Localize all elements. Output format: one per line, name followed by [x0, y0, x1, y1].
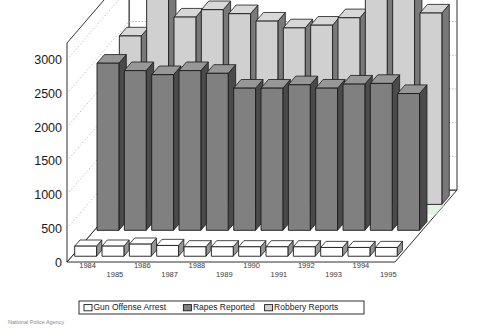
- x-tick-label-1991: 1991: [271, 270, 288, 279]
- x-tick-label-1993: 1993: [325, 270, 342, 279]
- y-tick-label-3000: 3000: [34, 53, 62, 67]
- bar-gun-offense-arrest-1994[interactable]: [348, 247, 370, 256]
- bar-top-gun-offense-arrest-1987: [157, 239, 184, 245]
- bar-rapes-reported-1985[interactable]: [124, 71, 146, 231]
- bar-top-gun-offense-arrest-1989: [211, 241, 238, 247]
- bar-rapes-reported-1992[interactable]: [316, 88, 338, 230]
- x-tick-label-1988: 1988: [189, 261, 206, 270]
- y-tick-label-0: 0: [55, 256, 62, 270]
- bar-gun-offense-arrest-1986[interactable]: [129, 244, 151, 256]
- bar-top-gun-offense-arrest-1991: [266, 241, 293, 247]
- bar-rapes-reported-1994[interactable]: [370, 83, 392, 230]
- bar-gun-offense-arrest-1995[interactable]: [375, 247, 397, 256]
- bar-gun-offense-arrest-1988[interactable]: [184, 247, 206, 256]
- legend-swatch-gun-offense-arrest: [84, 305, 92, 311]
- bar-top-gun-offense-arrest-1992: [293, 241, 320, 247]
- x-tick-label-1994: 1994: [353, 261, 370, 270]
- legend-label-gun-offense-arrest: Gun Offense Arrest: [94, 302, 167, 312]
- x-tick-label-1985: 1985: [107, 270, 124, 279]
- x-tick-label-1990: 1990: [243, 261, 260, 270]
- bar-chart-3d: 0500100015002000250030001984198519861987…: [0, 0, 484, 336]
- bar-rapes-reported-1991[interactable]: [288, 85, 310, 231]
- bar-gun-offense-arrest-1987[interactable]: [157, 245, 179, 256]
- bar-rapes-reported-1987[interactable]: [179, 71, 201, 231]
- chart-root: 0500100015002000250030001984198519861987…: [0, 0, 484, 336]
- y-tick-label-500: 500: [41, 222, 62, 236]
- bar-gun-offense-arrest-1989[interactable]: [211, 247, 233, 256]
- bar-rapes-reported-1986[interactable]: [152, 75, 174, 231]
- bar-side-robbery-reports-1995: [442, 4, 449, 204]
- bar-top-gun-offense-arrest-1995: [375, 241, 402, 247]
- bar-top-gun-offense-arrest-1984: [75, 240, 102, 246]
- bar-gun-offense-arrest-1992[interactable]: [293, 247, 315, 256]
- x-tick-label-1992: 1992: [298, 261, 315, 270]
- y-tick-label-1500: 1500: [34, 154, 62, 168]
- x-tick-label-1987: 1987: [161, 270, 178, 279]
- bar-top-gun-offense-arrest-1990: [239, 241, 266, 247]
- bar-gun-offense-arrest-1984[interactable]: [75, 246, 97, 256]
- legend-swatch-rapes-reported: [183, 305, 191, 311]
- bar-rapes-reported-1995[interactable]: [398, 94, 420, 231]
- source-caption: National Police Agency: [8, 319, 65, 325]
- legend-label-robbery-reports: Robbery Reports: [274, 302, 338, 312]
- bar-top-gun-offense-arrest-1985: [102, 240, 129, 246]
- bar-side-rapes-reported-1995: [420, 85, 427, 230]
- x-tick-label-1986: 1986: [134, 261, 151, 270]
- legend-swatch-robbery-reports: [265, 305, 273, 311]
- bar-rapes-reported-1988[interactable]: [206, 73, 228, 230]
- legend-label-rapes-reported: Rapes Reported: [193, 302, 255, 312]
- bar-gun-offense-arrest-1991[interactable]: [266, 247, 288, 256]
- bar-top-gun-offense-arrest-1993: [321, 241, 348, 247]
- bar-gun-offense-arrest-1993[interactable]: [321, 247, 343, 256]
- bar-rapes-reported-1990[interactable]: [261, 88, 283, 230]
- x-tick-label-1989: 1989: [216, 270, 233, 279]
- y-tick-label-1000: 1000: [34, 188, 62, 202]
- bar-rapes-reported-1989[interactable]: [234, 88, 256, 230]
- bar-rapes-reported-1984[interactable]: [97, 63, 119, 230]
- bar-gun-offense-arrest-1990[interactable]: [239, 247, 261, 256]
- y-tick-label-2000: 2000: [34, 121, 62, 135]
- x-tick-label-1995: 1995: [380, 270, 397, 279]
- y-tick-label-2500: 2500: [34, 87, 62, 101]
- bar-top-gun-offense-arrest-1986: [129, 238, 156, 244]
- bar-top-gun-offense-arrest-1994: [348, 241, 375, 247]
- x-tick-label-1984: 1984: [79, 261, 96, 270]
- bar-top-gun-offense-arrest-1988: [184, 241, 211, 247]
- bar-rapes-reported-1993[interactable]: [343, 84, 365, 230]
- bar-gun-offense-arrest-1985[interactable]: [102, 246, 124, 256]
